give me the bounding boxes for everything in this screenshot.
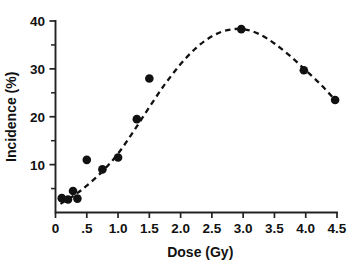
y-axis-title: Incidence (%): [3, 72, 19, 162]
x-tick-label-6: 3.0: [234, 221, 253, 236]
data-point-8: [145, 74, 154, 83]
data-point-11: [331, 96, 340, 105]
y-tick-label-3: 40: [30, 14, 45, 29]
y-tick-label-2: 30: [30, 62, 45, 77]
x-tick-label-0: 0: [52, 221, 60, 236]
x-tick-label-1: .5: [81, 221, 93, 236]
x-tick-label-4: 2.0: [171, 221, 190, 236]
fitted-curve: [61, 29, 336, 204]
axis-spines: [56, 21, 338, 213]
chart-figure: 0.51.01.52.02.53.03.54.04.510203040Dose …: [0, 0, 351, 268]
x-axis-title: Dose (Gy): [167, 244, 233, 260]
data-point-1: [64, 195, 73, 204]
data-point-10: [300, 66, 309, 75]
x-tick-label-8: 4.0: [296, 221, 315, 236]
data-point-6: [114, 153, 123, 162]
data-point-3: [73, 194, 82, 203]
x-tick-label-7: 3.5: [265, 221, 284, 236]
data-point-5: [98, 165, 107, 174]
x-tick-label-9: 4.5: [328, 221, 347, 236]
data-point-7: [133, 115, 142, 124]
x-tick-label-5: 2.5: [202, 221, 221, 236]
y-tick-label-0: 10: [30, 158, 45, 173]
y-tick-label-1: 20: [30, 110, 45, 125]
data-point-9: [237, 25, 246, 34]
x-tick-label-2: 1.0: [109, 221, 128, 236]
axis-label-layer: 0.51.01.52.02.53.03.54.04.510203040Dose …: [3, 14, 347, 260]
x-tick-label-3: 1.5: [140, 221, 159, 236]
data-marker-layer: [57, 25, 339, 204]
scatter-plot: 0.51.01.52.02.53.03.54.04.510203040Dose …: [0, 0, 351, 268]
data-point-2: [69, 187, 78, 196]
fitted-curve-layer: [61, 29, 336, 204]
data-point-4: [82, 156, 91, 165]
